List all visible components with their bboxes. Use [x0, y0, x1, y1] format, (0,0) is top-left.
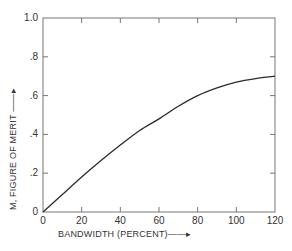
x-tick-label: 40	[108, 216, 132, 226]
x-tick-label: 0	[31, 216, 55, 226]
x-tick-label: 80	[186, 216, 210, 226]
x-tick-label: 120	[263, 216, 287, 226]
y-axis-title: M, FIGURE OF MERIT ——▸	[8, 88, 18, 210]
y-tick-label: .6	[18, 91, 38, 101]
y-tick-label: .4	[18, 129, 38, 139]
chart-canvas	[0, 0, 292, 251]
x-tick-label: 60	[147, 216, 171, 226]
figure-of-merit-curve	[43, 76, 275, 212]
plot-frame	[43, 18, 275, 212]
y-tick-label: .8	[18, 52, 38, 62]
y-tick-label: 1.0	[18, 13, 38, 23]
y-tick-label: .2	[18, 168, 38, 178]
x-axis-title-text: BANDWIDTH (PERCENT)	[58, 229, 168, 239]
x-axis-title: BANDWIDTH (PERCENT)——▸	[58, 229, 191, 239]
arrow-right-icon: ——▸	[168, 229, 192, 239]
axis-ticks	[43, 18, 275, 212]
arrow-up-icon: ——▸	[8, 88, 18, 112]
y-axis-title-text: M, FIGURE OF MERIT	[8, 115, 18, 210]
x-tick-label: 100	[224, 216, 248, 226]
x-tick-label: 20	[70, 216, 94, 226]
